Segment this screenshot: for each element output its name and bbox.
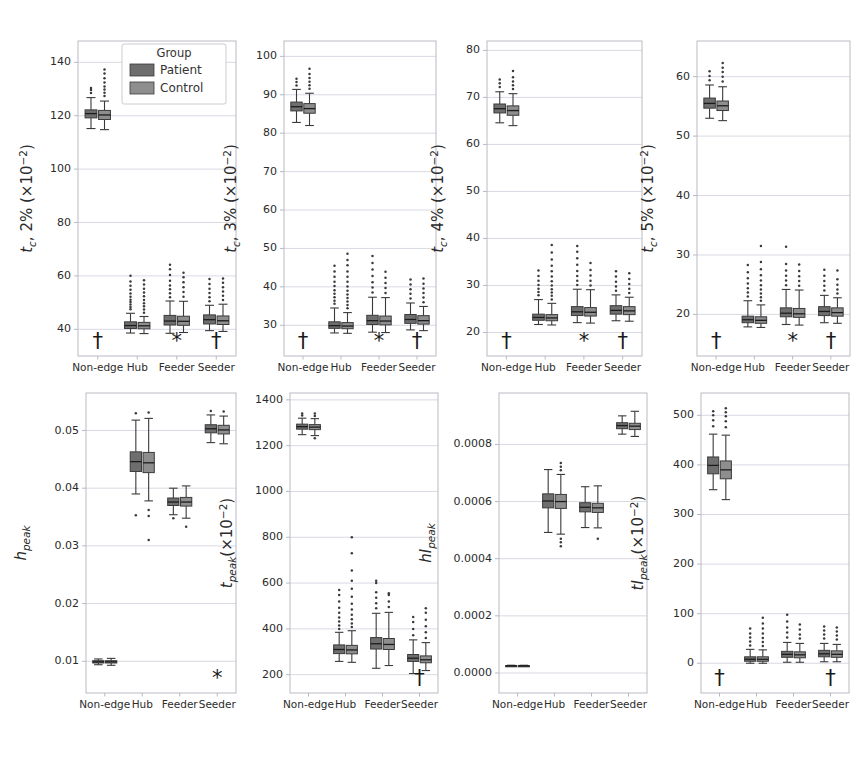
box-patient-seeder	[405, 278, 416, 330]
y-tick-label: 1000	[255, 484, 283, 497]
y-tick-label: 40	[263, 280, 277, 293]
y-tick-label: 90	[263, 88, 277, 101]
boxplot-panel-7: 0.00000.00020.00040.00060.0008hIpeakNon-…	[409, 379, 657, 727]
boxes	[704, 62, 843, 328]
box-control-feeder	[380, 271, 391, 333]
boxes	[85, 68, 229, 333]
y-tick-label: 80	[57, 216, 71, 229]
y-tick-label: 120	[50, 109, 71, 122]
boxes	[494, 70, 635, 325]
x-axis: Non-edgeHubFeederSeeder	[694, 693, 850, 710]
significance-marks: ††	[714, 666, 836, 690]
y-axis-label: tIpeak(×10−2)	[628, 496, 649, 591]
y-axis-label: tc, 4% (×10−2)	[428, 144, 449, 253]
box-control-hub	[342, 253, 353, 334]
y-tick-label: 0.01	[55, 654, 80, 667]
x-tick-label-feeder: Feeder	[775, 361, 812, 373]
y-tick-label: 0.0000	[454, 666, 493, 679]
box-patient-seeder	[819, 625, 830, 661]
box-patient-feeder	[780, 245, 791, 324]
legend-swatch-control	[130, 82, 154, 94]
box-patient-hub	[125, 274, 137, 333]
y-axis-label: hIpeak	[417, 522, 437, 562]
y-tick-label: 60	[263, 203, 277, 216]
sig-mark: †	[617, 329, 628, 353]
box-patient-feeder	[164, 263, 176, 333]
box-control-feeder	[181, 486, 192, 528]
y-axis: 200400600800100012001400	[255, 393, 290, 681]
box-patient-non-edge	[494, 78, 506, 123]
y-tick-label: 100	[256, 49, 277, 62]
sig-mark: †	[714, 666, 725, 690]
legend-swatch-patient	[130, 64, 154, 76]
gridlines	[701, 415, 849, 663]
x-tick-label-feeder: Feeder	[574, 698, 611, 710]
sig-mark: *	[374, 329, 385, 353]
boxplot-panel-4: 2030405060tc, 5% (×10−2)†*†Non-edgeHubFe…	[631, 27, 860, 390]
sig-mark: †	[826, 329, 837, 353]
y-tick-label: 60	[57, 269, 71, 282]
svg-text:tpeak(×10−2): tpeak(×10−2)	[217, 498, 238, 588]
y-tick-label: 0.0004	[454, 552, 493, 565]
y-tick-label: 50	[676, 129, 690, 142]
y-axis: 20304050607080	[466, 43, 487, 338]
y-tick-label: 0.0006	[454, 495, 493, 508]
y-axis-label: tc, 5% (×10−2)	[638, 144, 659, 253]
y-tick-label: 1400	[255, 393, 283, 406]
box-control-feeder	[794, 623, 805, 662]
x-tick-label-non-edge: Non-edge	[72, 361, 123, 373]
y-axis: 0100200300400500	[673, 408, 701, 669]
box-control-hub	[555, 462, 566, 548]
svg-text:tIpeak(×10−2): tIpeak(×10−2)	[628, 496, 649, 591]
y-tick-label: 400	[262, 622, 283, 635]
box-patient-feeder	[168, 488, 179, 519]
y-tick-label: 0.04	[55, 481, 80, 494]
box-patient-feeder	[367, 255, 378, 332]
y-tick-label: 60	[676, 70, 690, 83]
y-tick-label: 0.05	[55, 424, 80, 437]
y-tick-label: 80	[466, 43, 480, 56]
box-control-feeder	[793, 263, 804, 325]
y-axis: 406080100120140	[50, 55, 78, 335]
x-tick-label-non-edge: Non-edge	[79, 698, 130, 710]
box-patient-hub	[334, 589, 345, 662]
box-control-hub	[346, 536, 357, 662]
y-tick-label: 30	[263, 318, 277, 331]
box-patient-non-edge	[708, 410, 719, 490]
y-tick-label: 0.02	[55, 597, 80, 610]
y-tick-label: 0	[687, 656, 694, 669]
box-control-non-edge	[99, 68, 111, 129]
box-control-feeder	[592, 486, 603, 540]
box-control-non-edge	[518, 665, 529, 667]
significance-marks: †*†	[93, 329, 222, 353]
svg-text:tc, 5% (×10−2): tc, 5% (×10−2)	[638, 144, 659, 253]
x-tick-label-non-edge: Non-edge	[481, 361, 532, 373]
legend-title: Group	[156, 46, 191, 60]
y-tick-label: 140	[50, 55, 71, 68]
box-patient-feeder	[571, 245, 583, 323]
box-patient-non-edge	[291, 77, 302, 122]
box-control-non-edge	[717, 62, 728, 121]
boxes	[708, 407, 843, 663]
y-axis-label: tc, 3% (×10−2)	[221, 144, 242, 253]
y-axis-label: hpeak	[12, 525, 32, 561]
x-axis: Non-edgeHubFeederSeeder	[72, 356, 235, 373]
boxplot-panel-8: 0100200300400500tIpeak(×10−2)††Non-edgeH…	[621, 379, 859, 727]
y-tick-label: 70	[466, 90, 480, 103]
y-tick-label: 0.0002	[454, 609, 493, 622]
box-patient-seeder	[819, 269, 830, 323]
svg-text:tc, 2% (×10−2): tc, 2% (×10−2)	[17, 144, 38, 253]
box-patient-non-edge	[85, 87, 97, 129]
x-tick-label-hub: Hub	[744, 361, 766, 373]
x-tick-label-seeder: Seeder	[812, 698, 850, 710]
x-tick-label-hub: Hub	[544, 698, 566, 710]
boxplot-panel-3: 20304050607080tc, 4% (×10−2)†*†Non-edgeH…	[421, 27, 652, 390]
sig-mark: †	[93, 329, 104, 353]
sig-mark: †	[298, 329, 309, 353]
y-axis: 0.00000.00020.00040.00060.0008	[454, 437, 500, 679]
box-control-hub	[546, 244, 558, 325]
y-tick-label: 400	[673, 458, 694, 471]
x-tick-label-seeder: Seeder	[812, 361, 850, 373]
x-tick-label-hub: Hub	[330, 361, 352, 373]
box-patient-hub	[329, 264, 340, 332]
